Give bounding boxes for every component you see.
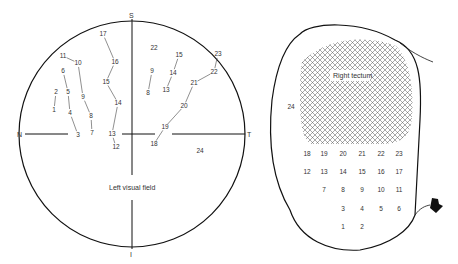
tectum-grid-label: 5: [379, 205, 383, 212]
field-point-label: 15: [102, 78, 110, 85]
tectum-grid-label: 1: [341, 223, 345, 230]
connection-line: [64, 75, 67, 88]
field-point-label: 17: [99, 30, 107, 37]
tectum-grid-label: 21: [358, 150, 366, 157]
tectum-grid-label: 18: [303, 150, 311, 157]
field-point-label: 4: [68, 109, 72, 116]
field-point-label: 10: [74, 59, 82, 66]
field-point-label: 21: [190, 79, 198, 86]
arrow-stem: [415, 205, 430, 215]
connection-line: [68, 96, 69, 109]
field-point-label: 13: [108, 130, 116, 137]
field-point-label: 5: [66, 88, 70, 95]
tectum-grid-label: 7: [322, 186, 326, 193]
connection-line: [91, 120, 92, 129]
axis-label-inferior: I: [130, 251, 132, 258]
tectum-grid-label: 16: [377, 168, 385, 175]
connection-line: [71, 117, 76, 131]
axis-label-temporal: T: [247, 131, 252, 138]
field-point-label: 13: [162, 86, 170, 93]
field-point-label: 12: [112, 143, 120, 150]
field-point-label: 9: [150, 67, 154, 74]
tectum-grid-label: 4: [360, 205, 364, 212]
field-point-label: 2: [54, 88, 58, 95]
tectum-grid-label: 6: [397, 205, 401, 212]
tectum-grid-label: 2: [360, 223, 364, 230]
tectum-outside-label: 24: [287, 103, 295, 110]
connection-line: [215, 58, 217, 68]
field-point-label: 15: [175, 51, 183, 58]
tectum-grid-label: 23: [395, 150, 403, 157]
connection-line: [105, 38, 114, 59]
field-point-label: 11: [60, 52, 67, 59]
tectum-grid-label: 20: [339, 150, 347, 157]
connection-line: [67, 58, 75, 62]
tectum-caption: Right tectum: [333, 72, 372, 80]
tectum-grid-label: 19: [320, 150, 328, 157]
field-point-label: 1: [52, 106, 56, 113]
tectum-grid-label: 14: [339, 168, 347, 175]
field-point-label: 22: [210, 68, 218, 75]
visual-field: S I N T Left visual field 12345678910111…: [17, 12, 252, 258]
axis-label-superior: S: [129, 12, 134, 19]
field-point-label: 20: [180, 102, 188, 109]
diagram-canvas: S I N T Left visual field 12345678910111…: [0, 0, 458, 264]
connection-line: [168, 109, 182, 124]
connection-line: [54, 96, 55, 106]
visual-field-points: 1234567891011121314151617891314151819202…: [52, 30, 222, 154]
tectum-grid-label: 15: [358, 168, 366, 175]
point-connections: [54, 38, 217, 144]
field-point-label: 3: [76, 131, 80, 138]
tectum-grid-label: 10: [377, 186, 385, 193]
field-point-label: 8: [146, 89, 150, 96]
tectum-grid: 1819202122231213141516177891011345612: [303, 150, 403, 230]
tectum-grid-label: 12: [303, 168, 311, 175]
field-point-label: 24: [196, 147, 204, 154]
field-point-label: 16: [111, 58, 119, 65]
field-point-label: 6: [61, 67, 65, 74]
field-point-label: 8: [89, 112, 93, 119]
connection-line: [186, 87, 193, 103]
connection-line: [85, 101, 90, 113]
field-point-label: 7: [90, 129, 94, 136]
tectum-grid-label: 3: [341, 205, 345, 212]
tectum-grid-label: 11: [396, 186, 403, 193]
arrow-icon: [430, 198, 443, 213]
connection-line: [108, 85, 116, 99]
connection-line: [198, 74, 211, 81]
connection-line: [174, 59, 177, 69]
tectum-grid-label: 9: [360, 186, 364, 193]
connection-line: [79, 67, 83, 93]
field-point-label: 14: [114, 99, 122, 106]
field-point-label: 19: [161, 123, 169, 130]
connection-line: [113, 107, 117, 130]
axis-label-nasal: N: [17, 131, 22, 138]
visual-field-caption: Left visual field: [109, 184, 155, 191]
connection-line: [149, 75, 152, 89]
field-point-label: 18: [150, 140, 158, 147]
field-point-label: 22: [150, 44, 158, 51]
tectum-grid-label: 8: [341, 186, 345, 193]
tectum-grid-label: 17: [395, 168, 403, 175]
tectum-grid-label: 22: [377, 150, 385, 157]
tectum-hatched-region: [300, 39, 412, 144]
tectum-grid-label: 13: [320, 168, 328, 175]
connection-line: [108, 66, 114, 79]
field-point-label: 23: [214, 50, 222, 57]
field-point-label: 14: [169, 69, 177, 76]
field-point-label: 9: [81, 93, 85, 100]
tectum: Right tectum 24 181920212223121314151617…: [271, 25, 443, 250]
